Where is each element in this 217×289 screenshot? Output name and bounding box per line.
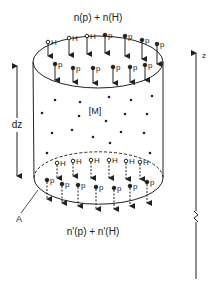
svg-text:H: H <box>60 159 66 168</box>
hydrogen-arrow: H <box>107 156 118 178</box>
svg-text:p: p <box>148 61 153 70</box>
top-incoming-particles: H H H p p p p <box>46 31 165 64</box>
proton-arrow: p <box>140 36 150 59</box>
medium-particles <box>41 95 154 155</box>
svg-text:p: p <box>117 184 122 193</box>
svg-text:p: p <box>145 36 150 45</box>
hydrogen-arrow: H <box>138 158 149 179</box>
svg-text:p: p <box>160 40 165 49</box>
svg-text:H: H <box>51 38 57 47</box>
svg-text:p: p <box>116 63 121 72</box>
svg-text:p: p <box>108 31 113 40</box>
svg-text:p: p <box>76 64 81 73</box>
proton-arrow: p <box>94 183 104 209</box>
proton-arrow: p <box>71 64 81 82</box>
proton-arrow: p <box>53 60 63 80</box>
svg-text:p: p <box>133 63 138 72</box>
hydrogen-arrow: H <box>71 157 82 176</box>
proton-arrow: p <box>112 184 122 209</box>
z-axis-label: z <box>202 51 206 60</box>
volume-label: [M] <box>89 106 102 116</box>
svg-text:H: H <box>112 156 118 165</box>
proton-arrow: p <box>128 63 138 82</box>
svg-text:p: p <box>96 64 101 73</box>
proton-arrow: p <box>111 63 121 83</box>
svg-text:H: H <box>72 34 78 43</box>
hydrogen-arrow: H <box>124 157 135 179</box>
proton-arrow: p <box>103 31 113 53</box>
bottom-hydrogen: H H H H H H <box>55 156 149 179</box>
svg-text:H: H <box>129 157 135 166</box>
proton-arrow: p <box>155 40 165 64</box>
svg-text:p: p <box>133 182 138 191</box>
hydrogen-arrow: H <box>46 38 57 56</box>
hydrogen-arrow: H <box>67 34 78 55</box>
flux-cylinder-diagram: n(p) + n(H) H H H p p p p p p p p p p [M… <box>0 0 217 289</box>
area-leader-line <box>21 190 38 213</box>
proton-arrow: p <box>76 181 86 206</box>
svg-text:H: H <box>76 157 82 166</box>
dz-label: dz <box>12 119 23 130</box>
top-flux-label: n(p) + n(H) <box>74 12 123 23</box>
svg-text:p: p <box>150 178 155 187</box>
top-face-protons: p p p p p p <box>53 60 153 83</box>
proton-arrow: p <box>123 32 133 56</box>
proton-arrow: p <box>145 178 155 203</box>
left-side <box>33 62 34 178</box>
svg-text:H: H <box>143 158 149 167</box>
hydrogen-arrow: H <box>89 156 100 178</box>
hydrogen-arrow: H <box>55 159 66 178</box>
proton-arrow: p <box>128 182 138 206</box>
area-label: A <box>16 214 22 224</box>
svg-text:p: p <box>58 60 63 69</box>
svg-text:p: p <box>81 181 86 190</box>
z-axis <box>194 53 198 279</box>
svg-text:H: H <box>94 156 100 165</box>
bottom-flux-label: n'(p) + n'(H) <box>67 226 119 237</box>
svg-text:p: p <box>99 183 104 192</box>
proton-arrow: p <box>91 64 101 83</box>
hydrogen-arrow: H <box>85 32 96 54</box>
svg-text:p: p <box>65 180 70 189</box>
svg-text:p: p <box>128 32 133 41</box>
svg-text:H: H <box>90 32 96 41</box>
svg-text:p: p <box>50 176 55 185</box>
